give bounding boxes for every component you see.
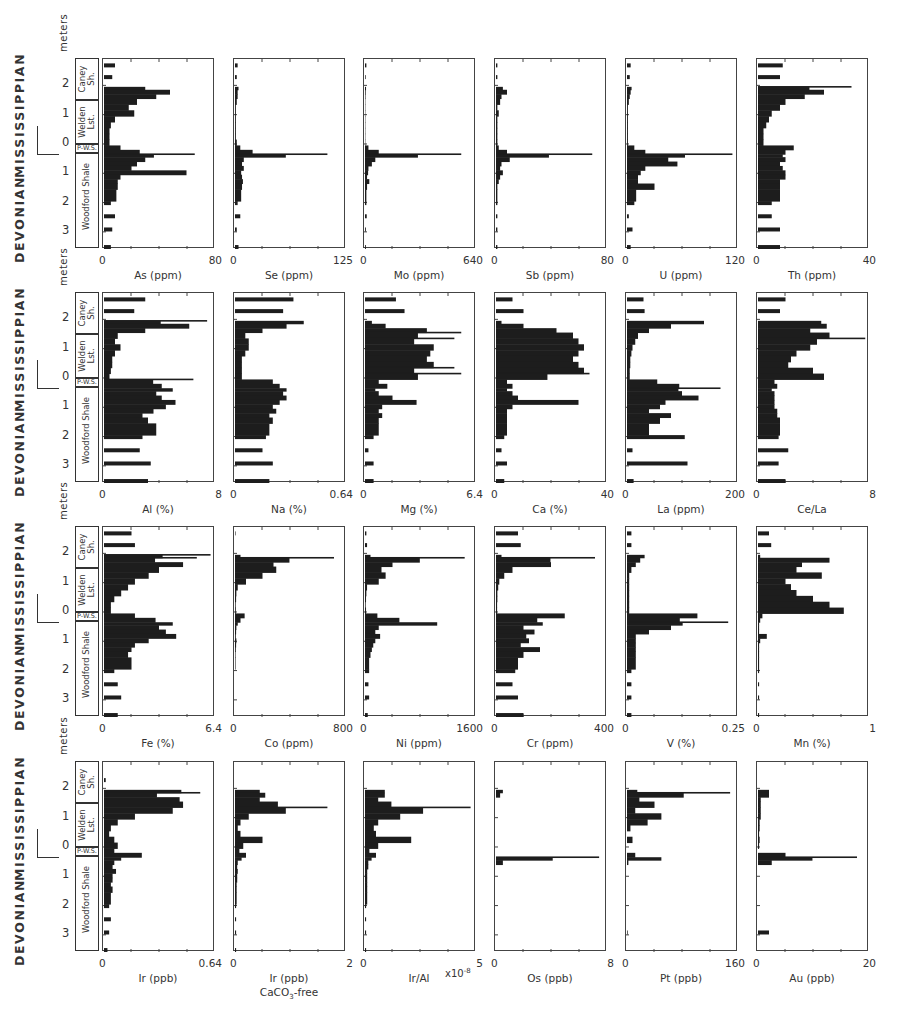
data-bar — [627, 110, 628, 116]
data-bar — [104, 94, 156, 99]
data-bar — [627, 104, 628, 110]
data-bar — [496, 647, 540, 652]
data-bar — [627, 338, 635, 344]
data-bar — [627, 94, 630, 99]
data-bar — [627, 170, 641, 175]
data-bar — [627, 404, 660, 409]
data-bar — [627, 572, 629, 578]
bar-plot — [757, 293, 869, 483]
data-bar — [365, 396, 393, 401]
data-bar — [235, 860, 238, 865]
data-bar — [235, 643, 236, 648]
x-axis-max: 0.64 — [323, 488, 353, 500]
data-bar — [627, 87, 632, 90]
data-bar — [627, 328, 649, 333]
data-bar — [235, 948, 236, 952]
data-bar — [235, 904, 236, 908]
data-bar — [758, 170, 786, 175]
data-bar — [104, 400, 176, 405]
data-bar — [104, 201, 111, 205]
data-bar — [627, 175, 638, 180]
data-bar — [104, 166, 132, 171]
data-bar — [496, 384, 513, 389]
era-label-mississippian: MISSISSIPPIAN — [12, 287, 27, 412]
data-bar — [104, 245, 111, 249]
data-bar — [235, 384, 280, 389]
data-bar — [365, 613, 377, 618]
data-bar — [496, 362, 579, 368]
data-bar — [104, 362, 112, 368]
data-bar — [627, 99, 629, 105]
data-bar — [104, 613, 135, 618]
x-axis-label: Th (ppm) — [756, 269, 868, 281]
x-axis-min: 0 — [491, 488, 498, 500]
panel-al — [102, 292, 214, 482]
data-bar — [627, 461, 688, 465]
data-bar — [104, 682, 118, 686]
data-bar — [758, 669, 759, 673]
x-axis-max: 1600 — [453, 722, 483, 734]
data-bar — [627, 413, 671, 418]
data-bar — [627, 608, 629, 614]
data-bar — [758, 622, 759, 625]
data-bar — [496, 94, 502, 99]
depth-tick-label: 1 — [62, 632, 69, 646]
data-bar — [104, 333, 118, 339]
data-bar — [104, 297, 145, 301]
bar-plot — [626, 762, 738, 952]
data-bar — [104, 227, 112, 231]
data-bar — [365, 860, 368, 865]
data-bar — [104, 368, 111, 374]
data-bar — [758, 391, 775, 396]
data-bar — [365, 297, 396, 301]
data-bar — [104, 882, 111, 887]
x-axis-min: 0 — [753, 254, 760, 266]
data-bar — [104, 116, 115, 122]
data-bar — [104, 396, 162, 401]
data-bar — [758, 630, 759, 635]
data-bar — [104, 75, 112, 79]
data-bar — [758, 150, 786, 155]
data-bar — [104, 630, 166, 635]
data-bar — [627, 802, 655, 808]
data-bar — [235, 409, 276, 414]
x-axis-max: 800 — [323, 722, 353, 734]
data-bar — [758, 643, 759, 648]
era-boundary-line — [37, 594, 38, 622]
data-bar — [496, 145, 499, 150]
data-bar — [235, 75, 237, 79]
data-bar — [104, 634, 176, 639]
data-bar — [496, 657, 518, 669]
data-bar — [496, 201, 497, 205]
data-bar — [104, 848, 114, 853]
data-bar — [104, 328, 145, 333]
x-axis-min: 0 — [360, 957, 367, 969]
data-bar — [235, 333, 245, 339]
data-bar — [235, 797, 260, 802]
depth-tick-label: 1 — [62, 574, 69, 588]
data-bar — [496, 572, 504, 578]
data-bar — [496, 461, 507, 465]
data-bar — [627, 448, 633, 452]
data-bar — [758, 400, 775, 405]
data-bar — [235, 134, 236, 140]
data-bar — [365, 831, 376, 837]
data-bar — [627, 362, 630, 368]
data-bar — [235, 338, 249, 344]
data-bar — [496, 189, 497, 201]
data-bar — [365, 324, 386, 329]
data-bar — [627, 116, 628, 122]
data-bar — [365, 618, 399, 623]
data-bar — [365, 647, 372, 652]
data-bar — [365, 567, 382, 573]
data-bar — [365, 843, 378, 849]
x-axis-min: 0 — [491, 254, 498, 266]
data-bar — [365, 384, 387, 389]
era-boundary-tick — [37, 388, 59, 389]
data-bar — [235, 602, 236, 608]
era-label-devonian: DEVONIAN — [12, 644, 27, 731]
depth-tick-label: 0 — [62, 603, 69, 617]
panel-ce-la — [756, 292, 868, 482]
x-axis-label: Mo (ppm) — [363, 269, 475, 281]
data-bar — [496, 596, 497, 602]
